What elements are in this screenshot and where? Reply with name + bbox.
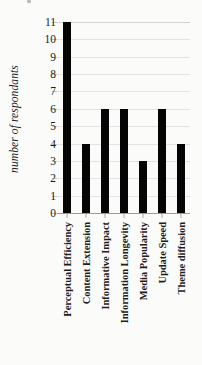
x-axis-tick-mark — [161, 214, 162, 218]
plot-area — [57, 22, 190, 213]
x-label-slot: Content Extension — [76, 222, 95, 365]
bar — [177, 144, 185, 213]
bar-slot — [57, 22, 76, 213]
bar — [101, 109, 109, 213]
x-axis-tick-label: Media Popularity — [137, 222, 148, 300]
x-label-slot: Media Popularity — [133, 222, 152, 365]
x-axis-tick-mark — [180, 214, 181, 218]
bar — [120, 109, 128, 213]
bar-slot — [76, 22, 95, 213]
scan-artifact-speck — [27, 0, 31, 3]
bar — [63, 22, 71, 213]
bar — [139, 161, 147, 213]
y-axis-tick-label: 5 — [32, 120, 56, 132]
y-axis-tick-label: 4 — [32, 138, 56, 150]
y-axis-tick-label: 0 — [32, 207, 56, 219]
x-axis-tick-label: Content Extension — [80, 222, 91, 304]
x-axis-tick-labels-group: Perceptual EfficiencyContent ExtensionIn… — [57, 222, 190, 365]
y-axis-title: number of respondants — [8, 39, 20, 199]
x-axis-tick-mark — [85, 214, 86, 218]
y-axis-tick-label: 3 — [32, 155, 56, 167]
x-axis-tick-label: Update Speed — [156, 222, 167, 284]
y-axis-tick-label: 9 — [32, 51, 56, 63]
x-axis-tick-mark — [104, 214, 105, 218]
y-axis-tick-label: 8 — [32, 68, 56, 80]
bar-chart-figure: number of respondants 11109876543210 Per… — [0, 0, 202, 365]
bar-slot — [114, 22, 133, 213]
x-label-slot: Information Longevity — [114, 222, 133, 365]
x-axis-tick-label: Perceptual Efficiency — [61, 222, 72, 317]
bar — [158, 109, 166, 213]
bar-slot — [95, 22, 114, 213]
x-axis-baseline — [57, 213, 190, 214]
bar — [82, 144, 90, 213]
y-axis-tick-label: 7 — [32, 85, 56, 97]
y-axis-tick-label: 10 — [32, 33, 56, 45]
x-axis-tick-label: Theme diffusion — [175, 222, 186, 294]
y-axis-tick-label: 2 — [32, 172, 56, 184]
x-label-slot: Perceptual Efficiency — [57, 222, 76, 365]
y-axis-tick-label: 6 — [32, 103, 56, 115]
x-axis-tick-label: Information Longevity — [118, 222, 129, 323]
x-axis-tick-mark — [142, 214, 143, 218]
bar-slot — [133, 22, 152, 213]
x-axis-tick-label: Informative Impact — [99, 222, 110, 309]
x-axis-tick-mark — [123, 214, 124, 218]
bar-slot — [152, 22, 171, 213]
x-label-slot: Informative Impact — [95, 222, 114, 365]
y-axis-tick-label: 1 — [32, 190, 56, 202]
x-axis-tick-mark — [66, 214, 67, 218]
x-label-slot: Theme diffusion — [171, 222, 190, 365]
x-label-slot: Update Speed — [152, 222, 171, 365]
bar-slot — [171, 22, 190, 213]
y-axis-tick-label: 11 — [32, 16, 56, 28]
